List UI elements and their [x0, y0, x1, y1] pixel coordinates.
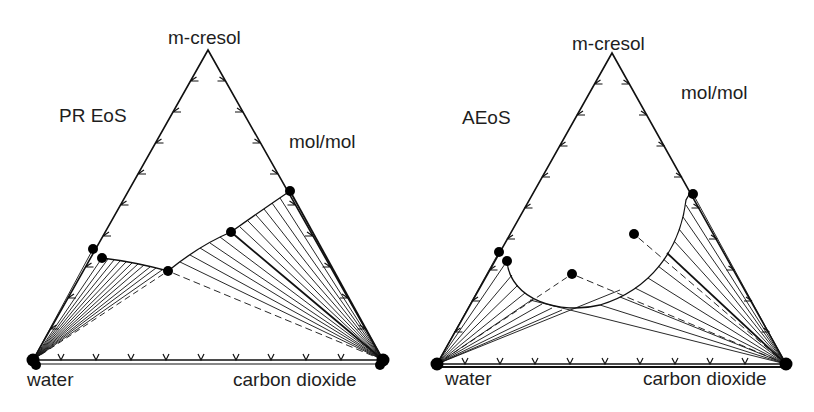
left-phase-boundary-water-side: [102, 258, 168, 271]
right-tielines-water: [437, 252, 572, 364]
right-water-label: water: [444, 368, 492, 389]
left-water-label: water: [26, 369, 74, 390]
right-apex-label: m-cresol: [572, 33, 645, 54]
right-model-label: AEoS: [462, 107, 511, 128]
ternary-figure: m-cresol PR EoS mol/mol water carbon dio…: [0, 0, 814, 412]
left-co2-label: carbon dioxide: [233, 369, 357, 390]
right-units-label: mol/mol: [681, 82, 748, 103]
right-tielines-co2: [572, 194, 786, 364]
left-triangle-frame: [33, 50, 383, 360]
left-units-label: mol/mol: [289, 131, 356, 152]
left-ternary-panel: [27, 50, 390, 370]
right-phase-envelope: [507, 193, 690, 308]
bottom-side-ticks: [58, 354, 344, 360]
left-model-label: PR EoS: [59, 105, 127, 126]
left-markers: [27, 186, 390, 370]
left-apex-label: m-cresol: [168, 27, 241, 48]
left-tielines-co2: [168, 191, 383, 360]
bottom-side-ticks: [462, 358, 748, 364]
right-co2-label: carbon dioxide: [643, 368, 767, 389]
